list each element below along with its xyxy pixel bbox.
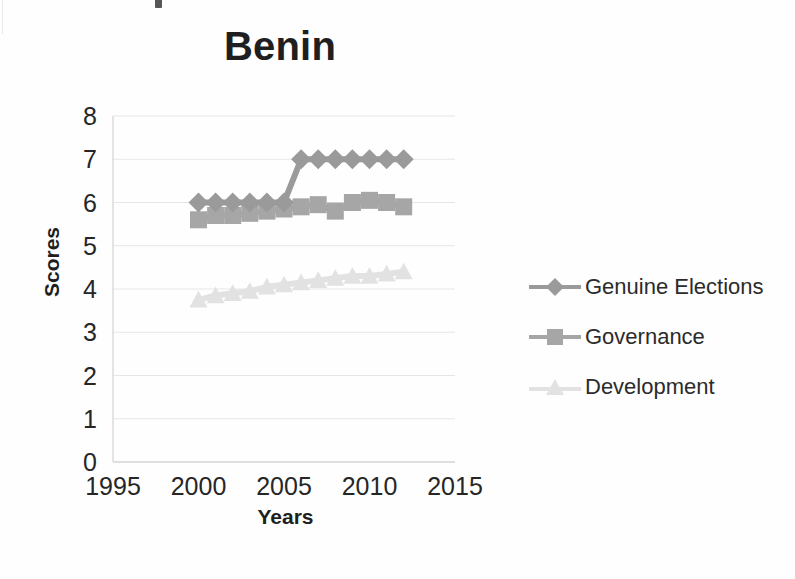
- data-point-marker: [190, 211, 207, 228]
- y-axis-tick-label: 6: [83, 189, 97, 217]
- data-point-marker: [377, 149, 397, 169]
- y-axis-tick-label: 2: [83, 362, 97, 390]
- data-point-marker: [342, 149, 362, 169]
- legend-label-governance: Governance: [583, 326, 705, 348]
- data-point-marker: [327, 203, 344, 220]
- square-marker-icon: [527, 326, 583, 348]
- data-point-marker: [291, 149, 311, 169]
- diamond-marker-icon: [527, 276, 583, 298]
- y-axis-tick-label: 3: [83, 318, 97, 346]
- data-point-marker: [378, 194, 395, 211]
- data-point-marker: [189, 193, 209, 213]
- page-root: Benin 01234567819952000200520102015 Scor…: [0, 0, 795, 579]
- data-point-marker: [293, 198, 310, 215]
- y-axis-tick-label: 4: [83, 275, 97, 303]
- legend-item-genuine-elections[interactable]: Genuine Elections: [527, 262, 789, 312]
- legend-label-genuine-elections: Genuine Elections: [583, 276, 764, 298]
- x-axis-tick-label: 2005: [256, 472, 312, 500]
- data-point-marker: [360, 149, 380, 169]
- data-point-marker: [361, 192, 378, 209]
- x-axis-tick-label: 1995: [85, 472, 141, 500]
- data-point-marker: [395, 198, 412, 215]
- legend-item-development[interactable]: Development: [527, 362, 789, 412]
- y-axis-tick-label: 5: [83, 232, 97, 260]
- data-point-marker: [310, 196, 327, 213]
- y-axis-tick-label: 1: [83, 405, 97, 433]
- triangle-marker-icon: [527, 376, 583, 398]
- data-point-marker: [325, 149, 345, 169]
- data-point-marker: [308, 149, 328, 169]
- chart-legend: Genuine Elections Governance Development: [527, 262, 789, 412]
- x-axis-tick-label: 2000: [171, 472, 227, 500]
- y-axis-label: Scores: [40, 202, 64, 322]
- x-axis-label: Years: [113, 505, 458, 529]
- x-axis-tick-label: 2010: [342, 472, 398, 500]
- data-point-marker: [344, 194, 361, 211]
- data-point-marker: [394, 149, 414, 169]
- y-axis-tick-label: 7: [83, 145, 97, 173]
- x-axis-tick-label: 2015: [427, 472, 483, 500]
- legend-item-governance[interactable]: Governance: [527, 312, 789, 362]
- y-axis-tick-label: 8: [83, 102, 97, 130]
- legend-label-development: Development: [583, 376, 715, 398]
